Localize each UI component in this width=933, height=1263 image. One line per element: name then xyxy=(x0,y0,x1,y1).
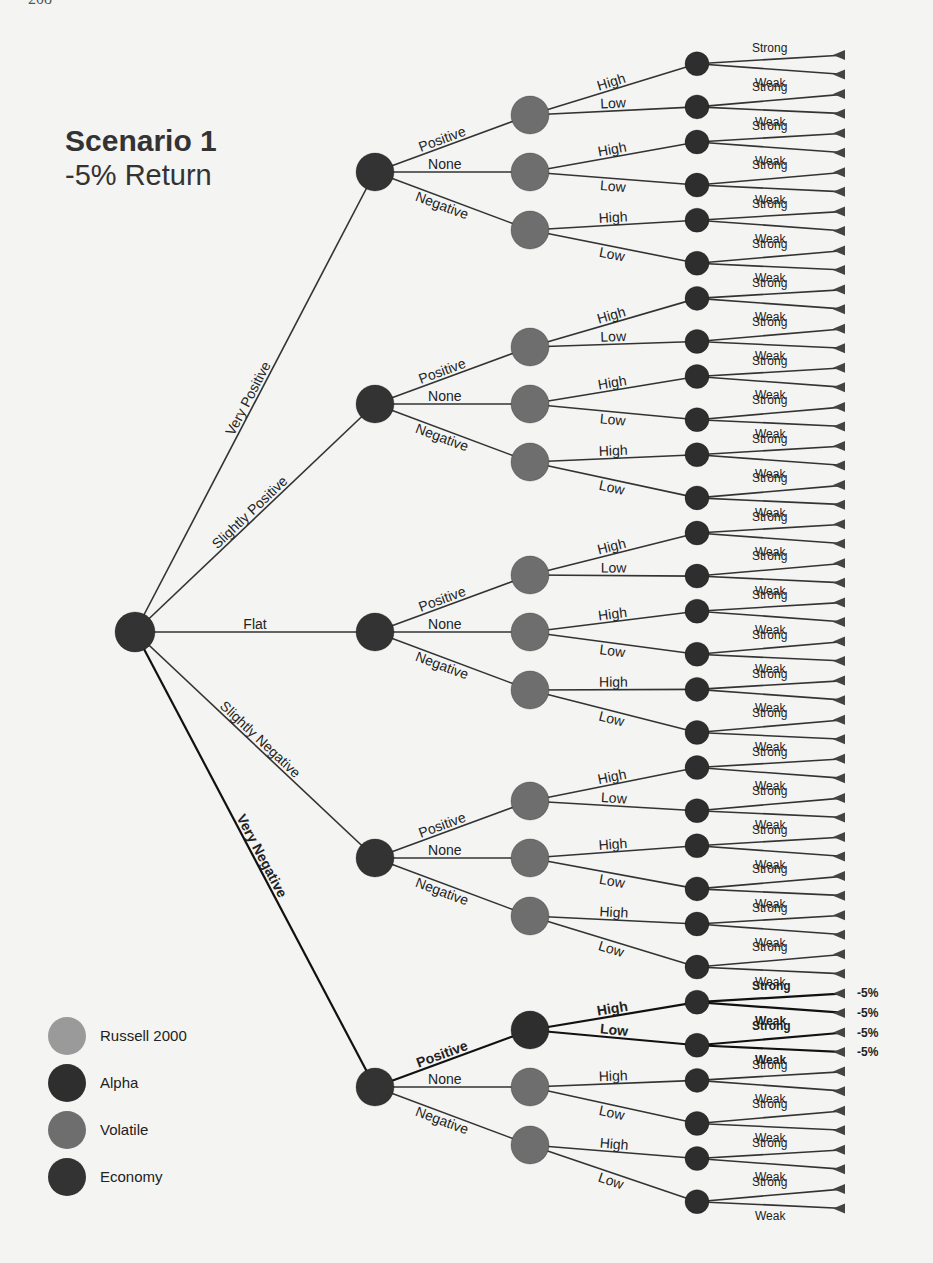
leaf-arrow-icon xyxy=(833,910,845,920)
alpha-branch-label: Low xyxy=(598,1102,627,1123)
alpha-branch-label: Low xyxy=(600,328,627,345)
leaf-arrow-icon xyxy=(833,656,845,666)
leaf-label-strong: Strong xyxy=(752,628,787,642)
leaf-edge xyxy=(697,1111,845,1124)
volatile-node xyxy=(511,556,549,594)
leaf-edge xyxy=(697,329,845,342)
leaf-edge xyxy=(697,563,845,576)
leaf-edge xyxy=(697,576,845,583)
leaf-edge xyxy=(697,681,845,690)
leaf-label-strong: Strong xyxy=(752,41,787,55)
leaf-arrow-icon xyxy=(833,1028,845,1038)
leaf-edge xyxy=(697,732,845,739)
leaf-label-strong: Strong xyxy=(752,1019,791,1033)
outcome-label: -5% xyxy=(857,1045,879,1059)
alpha-branch-label: Low xyxy=(599,177,627,195)
leaf-edge xyxy=(697,1150,845,1159)
volatile-branch-label: Negative xyxy=(413,648,471,682)
leaf-edge xyxy=(697,1045,845,1052)
leaf-arrow-icon xyxy=(833,676,845,686)
leaf-edge xyxy=(697,602,845,611)
alpha-branch-label: High xyxy=(598,442,627,459)
root-node xyxy=(115,612,155,652)
leaf-edge xyxy=(697,759,845,768)
leaf-arrow-icon xyxy=(833,50,845,60)
alpha-node xyxy=(685,1190,709,1214)
alpha-node xyxy=(685,365,709,389)
leaf-arrow-icon xyxy=(833,891,845,901)
leaf-label-strong: Strong xyxy=(752,237,787,251)
alpha-node xyxy=(685,599,709,623)
volatile-node xyxy=(511,671,549,709)
volatile-node xyxy=(511,1011,549,1049)
leaf-arrow-icon xyxy=(833,480,845,490)
leaf-edge xyxy=(697,611,845,622)
leaf-edge xyxy=(697,768,845,779)
leaf-arrow-icon xyxy=(833,695,845,705)
leaf-arrow-icon xyxy=(833,206,845,216)
leaf-label-strong: Strong xyxy=(752,80,787,94)
leaf-edge xyxy=(697,455,845,466)
volatile-branch-label: Positive xyxy=(414,1037,470,1071)
leaf-arrow-icon xyxy=(833,832,845,842)
outcome-label: -5% xyxy=(857,1006,879,1020)
leaf-label-strong: Strong xyxy=(752,901,787,915)
alpha-node xyxy=(685,95,709,119)
volatile-branch-label: Negative xyxy=(413,420,471,454)
leaf-arrow-icon xyxy=(833,578,845,588)
economy-node xyxy=(356,613,394,651)
alpha-branch-label: High xyxy=(597,372,628,392)
leaf-arrow-icon xyxy=(833,539,845,549)
volatile-node xyxy=(511,385,549,423)
economy-node xyxy=(356,153,394,191)
leaf-edge xyxy=(697,524,845,533)
leaf-edge xyxy=(697,654,845,661)
leaf-edge xyxy=(697,689,845,700)
alpha-node xyxy=(685,1111,709,1135)
alpha-branch-label: High xyxy=(596,766,627,787)
alpha-node xyxy=(685,521,709,545)
leaf-arrow-icon xyxy=(833,773,845,783)
leaf-edge xyxy=(697,446,845,455)
leaf-arrow-icon xyxy=(833,1145,845,1155)
alpha-branch-label: Low xyxy=(597,937,627,960)
leaf-label-strong: Strong xyxy=(752,1175,787,1189)
alpha-node xyxy=(685,130,709,154)
alpha-node xyxy=(685,642,709,666)
leaf-edge xyxy=(697,341,845,348)
leaf-arrow-icon xyxy=(833,265,845,275)
leaf-label-strong: Strong xyxy=(752,510,787,524)
legend-item-economy: Economy xyxy=(48,1153,187,1200)
economy-node xyxy=(356,385,394,423)
leaf-arrow-icon xyxy=(833,1008,845,1018)
leaf-edge xyxy=(697,94,845,107)
volatile-branch-label: Positive xyxy=(416,355,468,387)
alpha-node xyxy=(685,799,709,823)
alpha-branch-label: High xyxy=(598,208,628,226)
alpha-node xyxy=(685,329,709,353)
alpha-node xyxy=(685,443,709,467)
alpha-branch-label: Low xyxy=(600,1020,629,1038)
legend-item-alpha: Alpha xyxy=(48,1059,187,1106)
volatile-branch-label: Positive xyxy=(416,123,468,155)
alpha-node xyxy=(685,251,709,275)
legend-label: Volatile xyxy=(100,1121,148,1138)
leaf-edge xyxy=(697,533,845,544)
leaf-edge xyxy=(697,290,845,299)
alpha-branch-label: High xyxy=(599,1135,629,1153)
alpha-branch-label: Low xyxy=(598,477,627,498)
leaf-arrow-icon xyxy=(833,70,845,80)
leaf-arrow-icon xyxy=(833,969,845,979)
legend-label: Alpha xyxy=(100,1074,138,1091)
alpha-branch-label: Low xyxy=(597,708,627,730)
leaf-arrow-icon xyxy=(833,558,845,568)
leaf-edge xyxy=(697,1202,845,1209)
leaf-edge xyxy=(697,407,845,420)
leaf-edge xyxy=(697,64,845,75)
leaf-label-strong: Strong xyxy=(752,1136,787,1150)
alpha-branch-label: Low xyxy=(599,641,627,660)
alpha-node xyxy=(685,1068,709,1092)
alpha-node xyxy=(685,912,709,936)
leaf-arrow-icon xyxy=(833,89,845,99)
alpha-branch-label: High xyxy=(596,535,628,558)
